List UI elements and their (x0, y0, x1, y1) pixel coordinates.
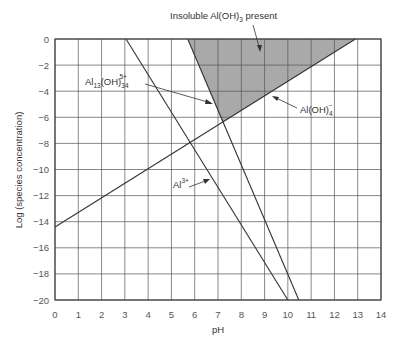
x-axis-label: pH (212, 324, 224, 335)
y-tick-label: 0 (44, 34, 49, 45)
al3-label: Al3+ (173, 177, 189, 190)
x-tick-label: 4 (145, 309, 150, 320)
y-tick-labels: 0−2−4−6−8−10−12−14−16−18−20 (33, 34, 49, 306)
y-tick-label: −8 (38, 138, 49, 149)
x-tick-label: 11 (306, 309, 316, 320)
x-tick-label: 3 (122, 309, 127, 320)
x-tick-label: 5 (169, 309, 174, 320)
x-tick-label: 6 (192, 309, 197, 320)
arrowhead-icon (205, 99, 213, 104)
aloh4-label: Al(OH)4− (300, 102, 333, 117)
x-tick-label: 14 (376, 309, 387, 320)
al13-label: Al13(OH)345+ (85, 73, 129, 89)
x-tick-label: 1 (76, 309, 81, 320)
al13-arrow (145, 84, 211, 103)
y-tick-label: −20 (33, 295, 49, 306)
y-tick-label: −10 (33, 164, 49, 175)
y-tick-label: −2 (38, 60, 49, 71)
chart: 01234567891011121314 0−2−4−6−8−10−12−14−… (0, 0, 398, 350)
y-tick-label: −18 (33, 268, 49, 279)
x-tick-labels: 01234567891011121314 (52, 309, 386, 320)
y-tick-label: −12 (33, 190, 49, 201)
arrowhead-icon (203, 179, 210, 184)
arrowhead-icon (272, 96, 279, 101)
x-tick-label: 8 (239, 309, 244, 320)
y-tick-label: −4 (38, 86, 49, 97)
x-tick-label: 0 (52, 309, 57, 320)
x-tick-label: 2 (99, 309, 104, 320)
x-tick-label: 13 (352, 309, 363, 320)
y-tick-label: −6 (38, 112, 49, 123)
x-tick-label: 9 (262, 309, 267, 320)
y-axis-label: Log (species concentration) (13, 112, 24, 229)
y-tick-label: −16 (33, 242, 49, 253)
y-tick-label: −14 (33, 216, 49, 227)
x-tick-label: 12 (329, 309, 340, 320)
x-tick-label: 10 (283, 309, 294, 320)
insoluble-label: Insoluble Al(OH)3 present (170, 10, 277, 23)
x-tick-label: 7 (215, 309, 220, 320)
